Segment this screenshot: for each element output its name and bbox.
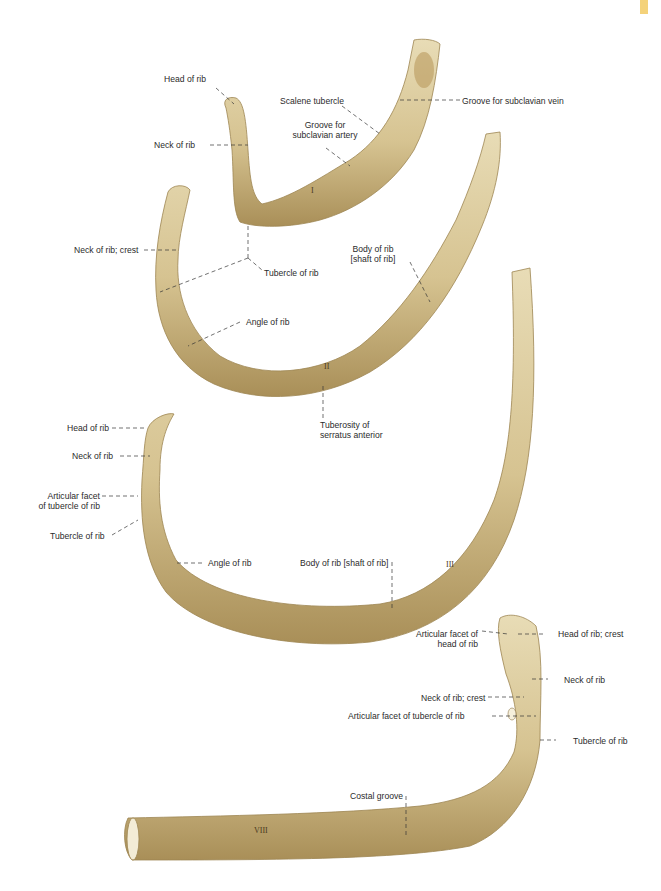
- label-rib1-head: Head of rib: [164, 74, 206, 84]
- label-rib8-costal-groove: Costal groove: [350, 791, 403, 801]
- label-rib1-groove-vein: Groove for subclavian vein: [462, 96, 564, 106]
- label-rib8-neck: Neck of rib: [564, 675, 605, 685]
- label-rib2-angle: Angle of rib: [246, 317, 289, 327]
- rib-2: [156, 132, 501, 397]
- numeral-rib8: VIII: [254, 826, 268, 835]
- label-rib3-body: Body of rib [shaft of rib]: [300, 558, 388, 568]
- rib-3: [142, 268, 534, 644]
- rib-8: [125, 615, 541, 860]
- numeral-rib2: II: [324, 362, 329, 371]
- label-rib3-angle: Angle of rib: [208, 558, 251, 568]
- label-rib2-body: Body of rib [shaft of rib]: [336, 244, 410, 264]
- numeral-rib3: III: [446, 560, 454, 569]
- label-rib3-facet: Articular facet of tubercle of rib: [30, 491, 100, 511]
- label-rib8-neck-crest: Neck of rib; crest: [421, 693, 485, 703]
- label-rib2-neck-crest: Neck of rib; crest: [74, 245, 138, 255]
- label-rib1-scalene-tubercle: Scalene tubercle: [280, 96, 344, 106]
- label-rib3-head: Head of rib: [67, 423, 109, 433]
- label-rib8-tubercle-facet: Articular facet of tubercle of rib: [348, 711, 465, 721]
- label-rib2-tubercle: Tubercle of rib: [264, 268, 319, 278]
- label-rib2-tuberosity: Tuberosity of serratus anterior: [320, 420, 383, 440]
- label-rib1-groove-artery: Groove for subclavian artery: [282, 120, 368, 140]
- label-rib3-tubercle: Tubercle of rib: [50, 531, 105, 541]
- label-rib8-head-facet: Articular facet of head of rib: [396, 629, 478, 649]
- label-rib3-neck: Neck of rib: [72, 451, 113, 461]
- numeral-rib1: I: [311, 186, 314, 195]
- label-rib1-neck: Neck of rib: [154, 140, 195, 150]
- label-rib8-tubercle: Tubercle of rib: [573, 736, 628, 746]
- label-rib8-head-crest: Head of rib; crest: [558, 629, 623, 639]
